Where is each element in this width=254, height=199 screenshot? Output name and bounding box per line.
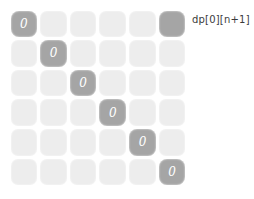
dp-cell (68, 157, 98, 187)
dp-cell (9, 68, 39, 98)
dp-cell (68, 9, 98, 39)
dp-cell (128, 39, 158, 69)
dp-cell-highlight (157, 9, 187, 39)
dp-grid: 000000 (9, 9, 187, 187)
dp-table-figure: 000000 dp[0][n+1] (0, 0, 254, 199)
dp-cell-highlight: 0 (128, 128, 158, 158)
dp-cell-value: 0 (109, 107, 117, 119)
dp-cell (98, 157, 128, 187)
dp-cell (128, 157, 158, 187)
dp-cell (157, 39, 187, 69)
dp-cell (98, 39, 128, 69)
dp-cell (98, 68, 128, 98)
dp-array-caption: dp[0][n+1] (192, 14, 250, 26)
dp-cell (39, 128, 69, 158)
dp-cell (128, 68, 158, 98)
dp-cell-highlight: 0 (98, 98, 128, 128)
dp-cell (157, 68, 187, 98)
dp-cell-highlight: 0 (157, 157, 187, 187)
dp-cell (68, 128, 98, 158)
dp-cell (39, 68, 69, 98)
dp-cell-value: 0 (168, 166, 176, 178)
dp-cell (98, 128, 128, 158)
dp-cell (157, 128, 187, 158)
dp-cell (39, 98, 69, 128)
dp-cell (39, 157, 69, 187)
dp-cell (68, 39, 98, 69)
dp-cell-value: 0 (20, 18, 28, 30)
dp-cell (9, 98, 39, 128)
dp-cell (39, 9, 69, 39)
dp-cell-highlight: 0 (9, 9, 39, 39)
dp-cell-value: 0 (139, 136, 147, 148)
dp-cell (98, 9, 128, 39)
dp-cell (9, 39, 39, 69)
dp-cell-highlight: 0 (68, 68, 98, 98)
dp-cell (128, 98, 158, 128)
dp-cell (9, 128, 39, 158)
dp-cell-value: 0 (50, 47, 58, 59)
dp-cell (68, 98, 98, 128)
dp-cell-value: 0 (79, 77, 87, 89)
dp-cell (157, 98, 187, 128)
dp-cell-highlight: 0 (39, 39, 69, 69)
dp-cell (9, 157, 39, 187)
dp-cell (128, 9, 158, 39)
